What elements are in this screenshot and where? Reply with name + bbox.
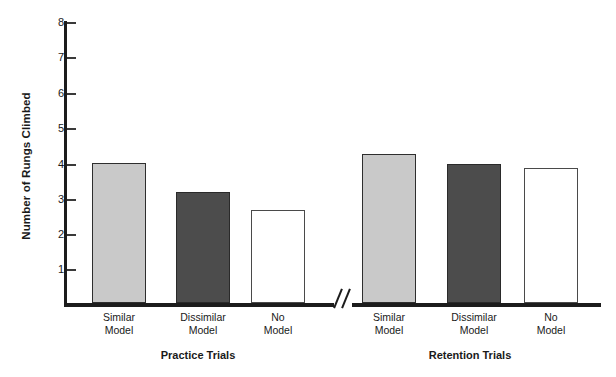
y-tick-4 [67, 164, 76, 166]
category-label-retention-no-model: No Model [503, 311, 599, 337]
axis-break-icon [330, 288, 356, 310]
group-title-practice: Practice Trials [98, 349, 298, 361]
y-tick-label-5: 5 [42, 123, 64, 134]
bar-retention-similar [362, 154, 416, 303]
category-line2: Model [71, 324, 167, 337]
bar-practice-no-model [251, 210, 305, 303]
category-label-practice-no-model: No Model [230, 311, 326, 337]
y-tick-label-6: 6 [42, 88, 64, 99]
category-label-practice-similar: Similar Model [71, 311, 167, 337]
category-line1: Similar [341, 311, 437, 324]
category-line1: No [503, 311, 599, 324]
category-line1: Similar [71, 311, 167, 324]
y-axis-title: Number of Rungs Climbed [20, 66, 32, 266]
y-tick-label-7: 7 [42, 52, 64, 63]
y-tick-6 [67, 93, 76, 95]
y-tick-label-4: 4 [42, 159, 64, 170]
y-tick-label-8: 8 [42, 17, 64, 28]
y-tick-7 [67, 57, 76, 59]
y-tick-8 [67, 22, 76, 24]
category-line2: Model [230, 324, 326, 337]
bar-retention-dissimilar [447, 164, 501, 303]
y-tick-label-3: 3 [42, 194, 64, 205]
bar-practice-similar [92, 163, 146, 304]
category-label-retention-similar: Similar Model [341, 311, 437, 337]
bar-chart-figure: Number of Rungs Climbed 8 7 6 5 4 3 2 1 … [0, 0, 616, 377]
group-title-retention: Retention Trials [370, 349, 570, 361]
category-line2: Model [503, 324, 599, 337]
y-tick-label-2: 2 [42, 229, 64, 240]
y-tick-3 [67, 199, 76, 201]
category-line2: Model [341, 324, 437, 337]
y-tick-label-1: 1 [42, 264, 64, 275]
y-tick-1 [67, 269, 76, 271]
bar-retention-no-model [524, 168, 578, 303]
category-line1: No [230, 311, 326, 324]
y-tick-2 [67, 234, 76, 236]
bar-practice-dissimilar [176, 192, 230, 303]
y-tick-5 [67, 128, 76, 130]
